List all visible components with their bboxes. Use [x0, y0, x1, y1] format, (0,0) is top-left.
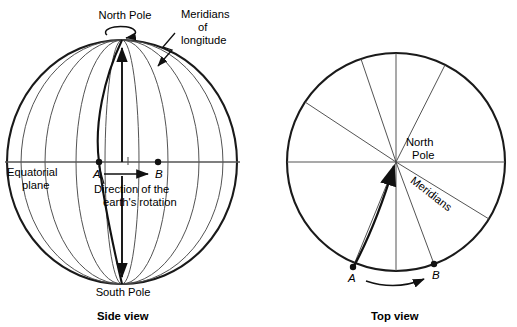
rotation-spin-icon — [106, 26, 136, 38]
point-b-marker — [155, 159, 161, 165]
top-north-pole-label-line2: Pole — [412, 149, 434, 162]
top-view-group — [287, 53, 505, 286]
side-point-a-label: A — [93, 168, 101, 181]
meridian-ray — [361, 59, 396, 162]
meridians-label-line3: longitude — [181, 34, 226, 47]
top-point-a-marker — [350, 264, 356, 270]
side-north-pole-label: North Pole — [90, 9, 160, 22]
side-view-group — [5, 26, 240, 284]
top-point-b-marker — [431, 261, 437, 267]
side-south-pole-label: South Pole — [88, 286, 158, 299]
figure-canvas: North Pole Meridians of longitude Equato… — [0, 0, 517, 327]
top-north-pole-label-line1: North — [406, 136, 433, 149]
direction-label-line1: Direction of the — [94, 183, 169, 196]
top-view-caption: Top view — [371, 310, 419, 323]
meridians-label-line2: of — [198, 21, 207, 34]
meridians-label-line1: Meridians — [181, 8, 230, 21]
meridian-ray — [305, 102, 396, 162]
top-rotation-direction-arrow — [366, 279, 424, 286]
point-a-marker — [96, 159, 102, 165]
equatorial-plane-label-line2: plane — [22, 179, 49, 192]
top-point-a-label: A — [348, 272, 356, 285]
side-point-b-label: B — [155, 168, 163, 181]
side-view-caption: Side view — [97, 310, 149, 323]
equatorial-plane-label-line1: Equatorial — [7, 166, 57, 179]
direction-label-line2: earth's rotation — [103, 196, 177, 209]
top-point-b-label: B — [432, 269, 440, 282]
